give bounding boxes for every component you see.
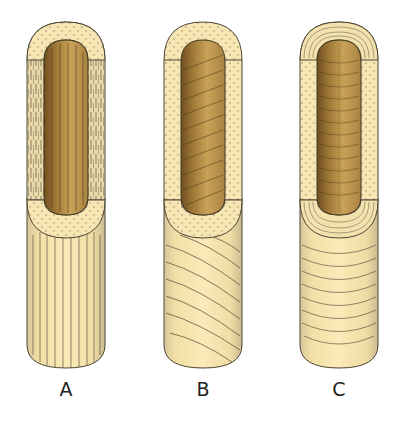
label-c: C: [324, 378, 354, 400]
panel-c-transverse-fiber: [300, 22, 378, 368]
panel-a-longitudinal-fiber: [27, 22, 105, 368]
panel-b-helical-fiber: [164, 22, 242, 368]
label-b: B: [188, 378, 218, 400]
label-a: A: [51, 378, 81, 400]
fiber-structure-diagram: [0, 0, 393, 424]
